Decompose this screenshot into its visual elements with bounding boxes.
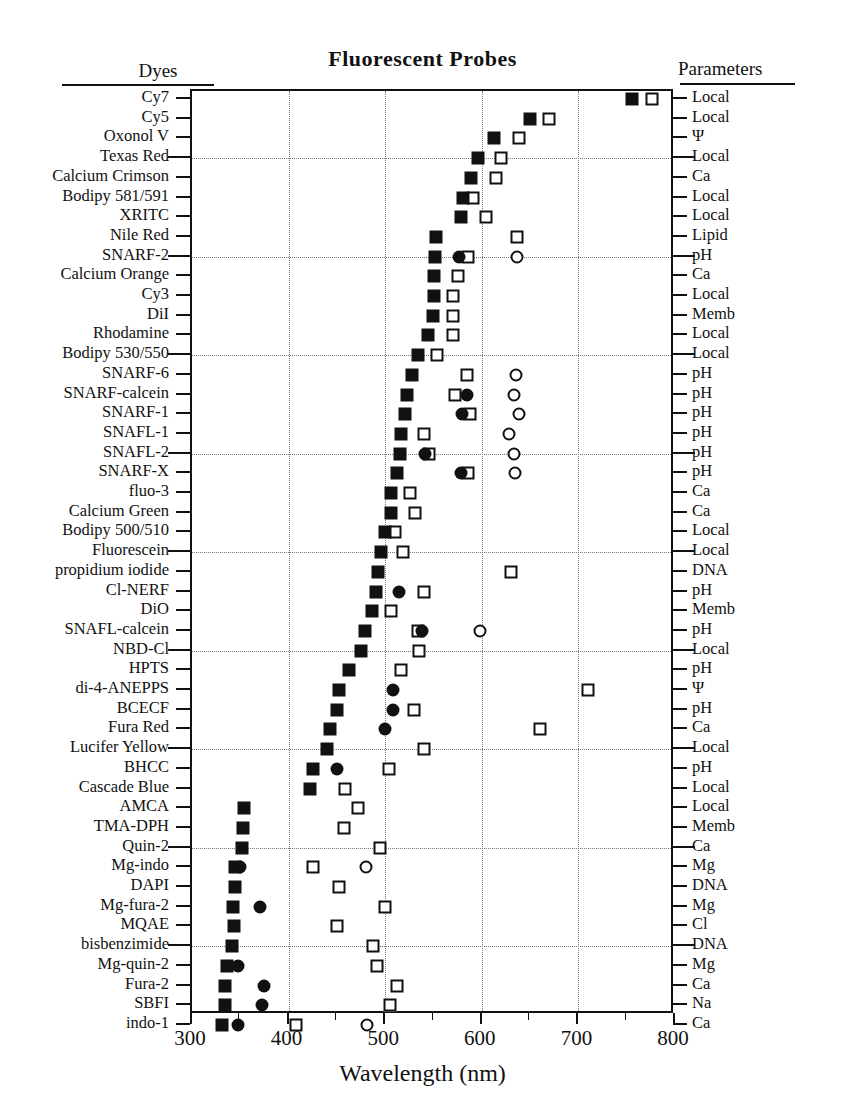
parameter-label: Local	[692, 542, 730, 559]
dye-label: SNARF-1	[102, 404, 169, 421]
filled-square-marker	[390, 467, 403, 480]
open-square-marker	[417, 743, 430, 756]
dye-row-tick	[176, 412, 190, 414]
filled-square-marker	[471, 152, 484, 165]
open-square-marker	[337, 821, 350, 834]
open-circle-marker	[507, 388, 520, 401]
parameter-label: pH	[692, 463, 712, 480]
dye-label: NBD-Cl	[113, 640, 169, 657]
parameter-row-tick	[673, 314, 687, 316]
x-axis-tick	[576, 1013, 578, 1024]
dye-row-tick	[176, 629, 190, 631]
open-square-marker	[543, 112, 556, 125]
dye-label: Mg-indo	[111, 857, 169, 874]
filled-square-marker	[394, 427, 407, 440]
horizontal-gridline	[192, 749, 671, 750]
filled-square-marker	[412, 349, 425, 362]
parameter-row-tick	[673, 984, 687, 986]
parameter-row-tick	[673, 136, 687, 138]
parameter-label: Ca	[692, 266, 710, 283]
parameter-label: pH	[692, 246, 712, 263]
vertical-gridline	[482, 91, 483, 1011]
open-square-marker	[431, 349, 444, 362]
x-axis-tick-label: 300	[174, 1026, 206, 1051]
dye-row-tick	[176, 530, 190, 532]
dye-row-tick	[176, 117, 190, 119]
dye-label: AMCA	[119, 798, 169, 815]
parameter-label: pH	[692, 581, 712, 598]
dye-label: DiO	[141, 601, 169, 618]
filled-square-marker	[384, 506, 397, 519]
filled-square-marker	[343, 664, 356, 677]
filled-square-marker	[218, 979, 231, 992]
open-square-marker	[479, 211, 492, 224]
parameter-label: Mg	[692, 956, 715, 973]
x-axis-tick	[383, 1013, 385, 1024]
x-axis-tick	[480, 1013, 482, 1024]
dye-row-tick	[176, 1023, 190, 1025]
filled-square-marker	[457, 191, 470, 204]
dye-row-tick	[176, 314, 190, 316]
dye-label: SNAFL-1	[103, 424, 169, 441]
filled-square-marker	[365, 605, 378, 618]
open-square-marker	[504, 565, 517, 578]
filled-square-marker	[427, 270, 440, 283]
parameter-row-tick	[673, 530, 687, 532]
dye-label: Texas Red	[100, 148, 169, 165]
dye-label: Bodipy 500/510	[62, 522, 169, 539]
parameter-label: DNA	[692, 936, 728, 953]
parameter-row-tick	[673, 826, 687, 828]
filled-circle-marker	[392, 585, 405, 598]
open-square-marker	[417, 427, 430, 440]
open-square-marker	[461, 368, 474, 381]
chart-page: Fluorescent Probes Dyes Parameters 30040…	[0, 0, 845, 1118]
filled-square-marker	[488, 132, 501, 145]
parameter-label: Ψ	[692, 128, 704, 145]
parameter-row-tick	[673, 609, 687, 611]
dye-label: indo-1	[126, 1015, 169, 1032]
filled-circle-marker	[379, 723, 392, 736]
parameter-label: pH	[692, 365, 712, 382]
parameter-label: DNA	[692, 562, 728, 579]
filled-square-marker	[227, 920, 240, 933]
dye-label: Oxonol V	[104, 128, 169, 145]
parameter-row-tick	[673, 629, 687, 631]
dye-row-tick	[176, 215, 190, 217]
dye-row-tick	[168, 846, 190, 848]
open-circle-marker	[508, 467, 521, 480]
open-circle-marker	[473, 624, 486, 637]
open-square-marker	[366, 940, 379, 953]
open-square-marker	[495, 152, 508, 165]
dye-row-tick	[176, 708, 190, 710]
parameters-column-header: Parameters	[678, 58, 808, 80]
filled-square-marker	[236, 841, 249, 854]
parameter-label: pH	[692, 443, 712, 460]
open-circle-marker	[509, 368, 522, 381]
x-axis-minor-tick	[528, 1013, 529, 1020]
filled-square-marker	[355, 644, 368, 657]
parameter-row-tick	[673, 806, 687, 808]
dye-label: Calcium Crimson	[52, 168, 169, 185]
parameter-label: Mg	[692, 857, 715, 874]
open-square-marker	[394, 664, 407, 677]
parameter-label: Na	[692, 995, 711, 1012]
parameter-row-tick	[673, 412, 687, 414]
dye-row-tick	[176, 787, 190, 789]
dye-row-tick	[176, 984, 190, 986]
parameter-label: Ψ	[692, 680, 704, 697]
dye-label: di-4-ANEPPS	[75, 680, 169, 697]
filled-square-marker	[399, 408, 412, 421]
parameter-label: Local	[692, 522, 730, 539]
filled-square-marker	[384, 487, 397, 500]
parameter-row-tick	[673, 570, 687, 572]
x-axis-minor-tick	[625, 1013, 626, 1020]
parameter-label: Memb	[692, 818, 735, 835]
horizontal-gridline	[192, 651, 671, 652]
dye-row-tick	[168, 649, 190, 651]
filled-square-marker	[218, 999, 231, 1012]
dye-row-tick	[176, 393, 190, 395]
dye-label: SNARF-X	[98, 463, 169, 480]
dye-label: SNAFL-calcein	[65, 621, 169, 638]
dye-row-tick	[176, 570, 190, 572]
open-square-marker	[409, 506, 422, 519]
